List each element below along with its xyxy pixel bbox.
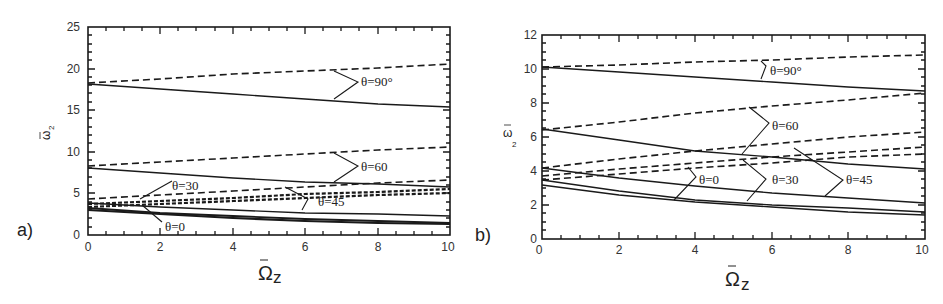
figure: a) 0 5 10 15 20 25 0 2 4 6 8 10 Ω z ω xyxy=(0,0,943,304)
curve-a-theta60-dashed xyxy=(88,147,450,166)
curve-a-theta90-dashed xyxy=(88,64,450,83)
y-tick-label: 20 xyxy=(67,62,81,76)
curve-b-theta90-solid xyxy=(542,67,925,91)
curve-a-theta30-dashed xyxy=(88,189,450,204)
x-tick-label: 4 xyxy=(692,243,699,257)
x-tick-label: 8 xyxy=(845,243,852,257)
curve-label-a-theta60: θ=60 xyxy=(361,159,388,174)
x-tick-label: 2 xyxy=(616,243,623,257)
y-tick-label: 0 xyxy=(73,228,80,242)
x-axis-title-main: Ω xyxy=(258,262,273,284)
panel-b-y-tick-labels: 0 2 4 6 8 10 12 xyxy=(524,28,538,246)
y-tick-label: 6 xyxy=(530,130,537,144)
x-tick-label: 4 xyxy=(230,240,237,254)
y-tick-label: 25 xyxy=(67,20,81,34)
y-axis-title-main: ω xyxy=(503,126,512,140)
curve-b-theta60-solid xyxy=(542,129,925,169)
curve-b-theta60-dashed xyxy=(542,93,925,130)
panel-b-y-axis-title: ω 2 xyxy=(503,125,517,149)
curve-label-a-theta45: θ=45 xyxy=(318,194,345,209)
y-axis-title-sub: 2 xyxy=(512,140,517,149)
x-axis-title-sub: z xyxy=(741,275,750,294)
panel-a-x-tick-labels: 0 2 4 6 8 10 xyxy=(85,240,455,254)
curve-a-theta30-solid xyxy=(88,208,450,223)
curve-label-b-theta90: θ=90° xyxy=(770,63,802,78)
x-axis-title-sub: z xyxy=(273,268,282,287)
panel-b-x-axis-title: Ω z xyxy=(725,266,750,294)
curve-label-a-theta30: θ=30 xyxy=(172,178,199,193)
y-tick-label: 8 xyxy=(530,96,537,110)
panel-a: a) 0 5 10 15 20 25 0 2 4 6 8 10 Ω z ω xyxy=(17,20,455,287)
panel-a-x-axis-title: Ω z xyxy=(258,260,282,287)
curve-label-b-theta45: θ=45 xyxy=(846,172,873,187)
y-axis-title-main: ω xyxy=(39,131,53,140)
panel-b: b) 0 2 4 6 8 10 12 0 2 4 6 8 10 Ω z ω 2 xyxy=(475,28,929,294)
panel-b-x-tick-labels: 0 2 4 6 8 10 xyxy=(536,243,929,257)
y-tick-label: 15 xyxy=(67,103,81,117)
panel-a-y-tick-labels: 0 5 10 15 20 25 xyxy=(67,20,81,242)
x-tick-label: 10 xyxy=(441,240,455,254)
x-tick-label: 2 xyxy=(157,240,164,254)
x-axis-title-main: Ω xyxy=(725,268,740,290)
y-tick-label: 12 xyxy=(524,28,538,42)
x-tick-label: 6 xyxy=(302,240,309,254)
curve-label-b-theta60: θ=60 xyxy=(772,118,799,133)
curve-label-b-theta0: θ=0 xyxy=(699,172,719,187)
x-tick-label: 0 xyxy=(536,243,543,257)
curve-label-a-theta0: θ=0 xyxy=(165,219,185,234)
curve-a-theta60-solid xyxy=(88,168,450,187)
y-tick-label: 2 xyxy=(530,198,537,212)
x-tick-label: 0 xyxy=(85,240,92,254)
y-tick-label: 5 xyxy=(73,186,80,200)
panel-a-label: a) xyxy=(17,220,33,240)
panel-a-y-axis-title: ω 2 xyxy=(39,125,56,140)
y-axis-title-sub: 2 xyxy=(47,125,56,130)
panel-b-curves xyxy=(542,55,925,215)
y-tick-label: 10 xyxy=(67,145,81,159)
panel-a-curves xyxy=(88,64,450,224)
curve-a-theta90-solid xyxy=(88,84,450,107)
y-tick-label: 4 xyxy=(530,164,537,178)
y-tick-label: 10 xyxy=(524,62,538,76)
x-tick-label: 6 xyxy=(769,243,776,257)
x-tick-label: 10 xyxy=(915,243,929,257)
curve-label-b-theta30: θ=30 xyxy=(772,172,799,187)
curve-label-a-theta90: θ=90° xyxy=(361,74,393,89)
x-tick-label: 8 xyxy=(375,240,382,254)
panel-b-label: b) xyxy=(475,225,491,245)
curve-b-theta90-dashed xyxy=(542,55,925,67)
